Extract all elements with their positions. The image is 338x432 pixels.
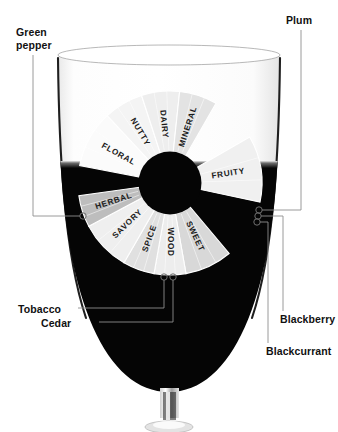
callout-label-blackberry: Blackberry (280, 313, 335, 326)
callout-label-green-pepper: Green pepper (16, 26, 52, 51)
glass-stem-and-foot (145, 388, 193, 432)
callout-label-blackcurrant: Blackcurrant (266, 345, 331, 358)
callout-label-tobacco: Tobacco (18, 303, 61, 316)
glass-rim (58, 45, 280, 65)
callout-label-cedar: Cedar (41, 317, 71, 330)
callout-label-plum: Plum (286, 14, 312, 27)
figure-canvas: FLORALNUTTYDAIRYMINERALFRUITYSWEETWOODSP… (0, 0, 338, 432)
wheel-center-hub (139, 152, 202, 215)
wine-glass-aroma-wheel-illustration: FLORALNUTTYDAIRYMINERALFRUITYSWEETWOODSP… (0, 0, 338, 432)
wheel-segment-label-wood: WOOD (166, 227, 175, 256)
